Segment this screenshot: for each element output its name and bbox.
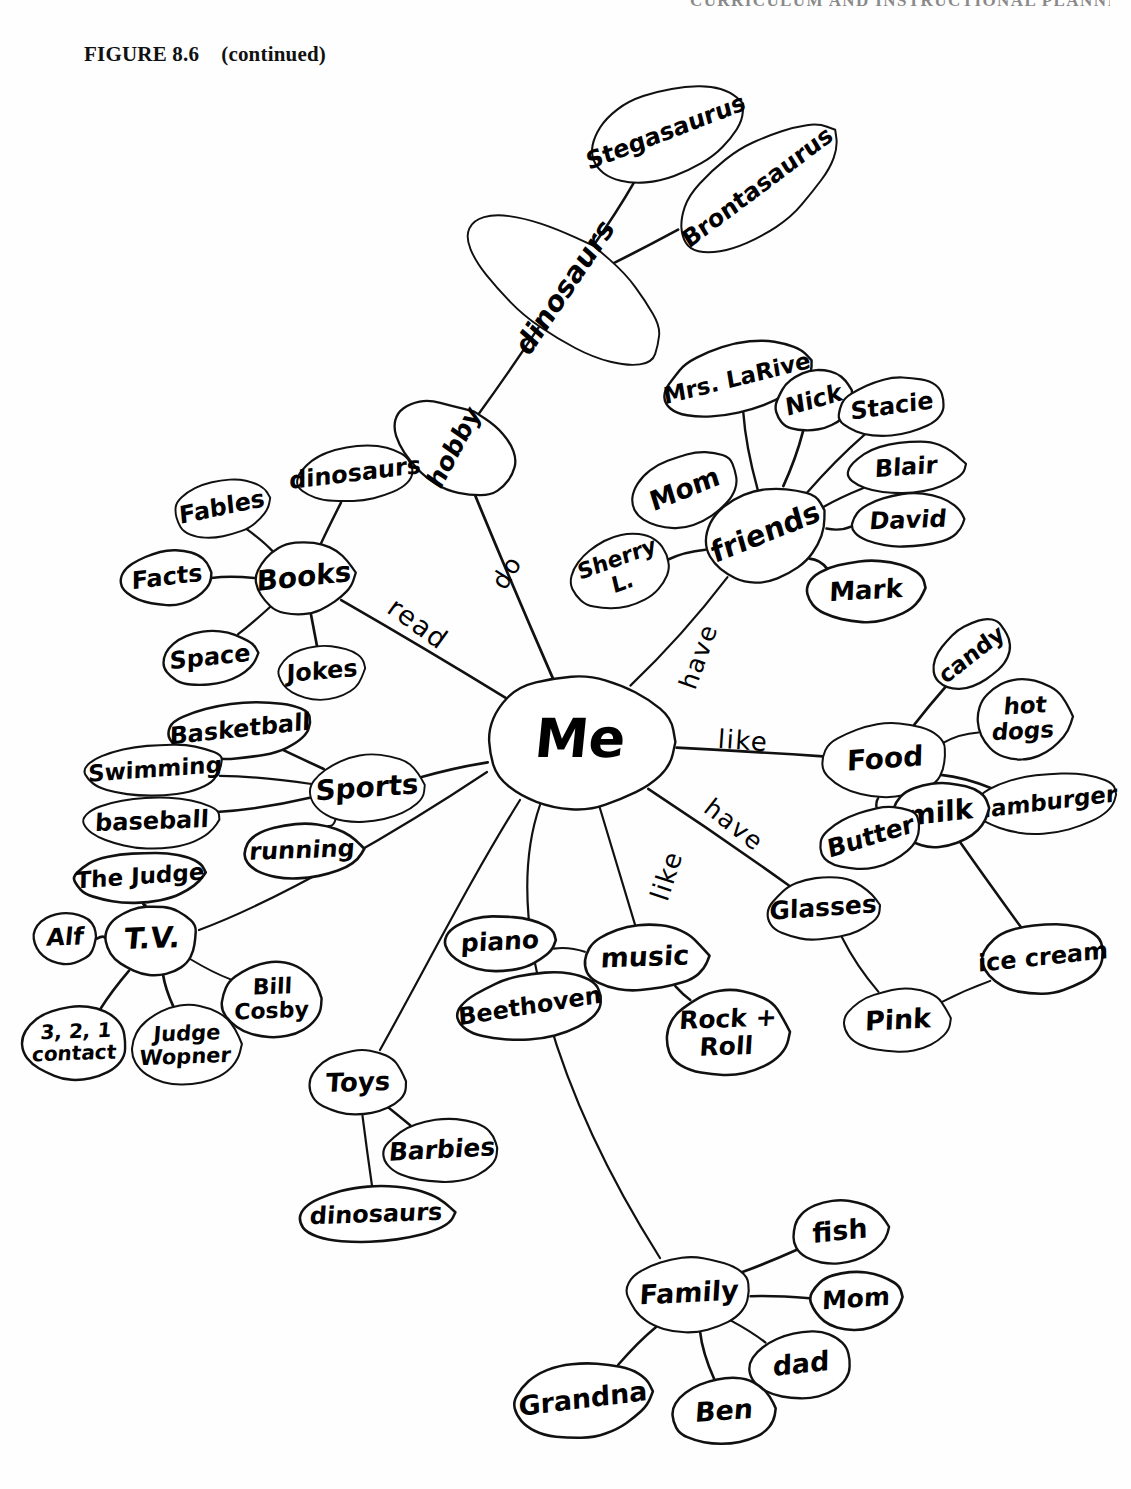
edge-sports-to-baseball — [217, 798, 311, 813]
node-label-piano: piano — [460, 925, 540, 958]
node-label-running: running — [248, 834, 356, 866]
node-tv[interactable]: T.V. — [105, 907, 195, 976]
node-icecream[interactable]: ice cream — [978, 924, 1108, 993]
node-books[interactable]: Books — [256, 542, 356, 614]
node-mom_fam[interactable]: Mom — [810, 1272, 902, 1330]
edge-books-to-jokes — [311, 613, 317, 645]
edge-sports-to-running — [328, 819, 336, 826]
edge-food-to-hotdogs — [943, 732, 978, 743]
edge-friends-to-david — [826, 526, 852, 529]
edge-pink-to-glasses — [842, 937, 879, 992]
edge-books-to-space — [238, 607, 271, 635]
edge-sports-to-swimming — [220, 776, 312, 784]
mind-map-diagram: MehobbydinosaursStegasaurusBrontasaurusB… — [0, 0, 1131, 1489]
node-candy[interactable]: candy — [933, 619, 1009, 689]
edge-me-to-music — [600, 807, 636, 926]
edge-label-me-to-food: like — [717, 724, 770, 757]
node-baseball[interactable]: baseball — [83, 798, 219, 849]
node-label-alf: Alf — [45, 922, 85, 951]
node-label-dinosaurs_t: dinosaurs — [309, 1198, 443, 1231]
node-label-music: music — [600, 939, 690, 973]
node-toys[interactable]: Toys — [309, 1050, 406, 1114]
node-sherry[interactable]: SherryL. — [571, 532, 669, 608]
node-label-dad: dad — [773, 1344, 830, 1381]
edge-family-to-ben — [700, 1331, 714, 1379]
node-label-blair: Blair — [874, 451, 938, 483]
node-david[interactable]: David — [852, 493, 964, 547]
page-canvas: CURRICULUM AND INSTRUCTIONAL PLANNING FI… — [0, 0, 1131, 1489]
node-piano[interactable]: piano — [445, 916, 556, 971]
edge-family-to-grandna — [618, 1327, 656, 1365]
node-label-judgewopner: JudgeWopner — [139, 1019, 234, 1070]
edge-family-to-dad — [731, 1321, 766, 1343]
node-label-david: David — [868, 505, 948, 536]
node-butter[interactable]: Butter — [820, 807, 919, 869]
node-rockroll[interactable]: Rock +Roll — [667, 990, 790, 1075]
node-fish[interactable]: fish — [793, 1200, 889, 1263]
node-swimming[interactable]: Swimming — [85, 745, 223, 796]
node-barbies[interactable]: Barbies — [383, 1119, 497, 1182]
node-label-fish: fish — [812, 1212, 867, 1249]
node-space[interactable]: Space — [164, 631, 259, 685]
node-contact321[interactable]: 3, 2, 1contact — [22, 1006, 125, 1080]
node-glasses[interactable]: Glasses — [768, 877, 880, 939]
node-alf[interactable]: Alf — [34, 913, 96, 964]
node-beethoven[interactable]: Beethoven — [457, 972, 602, 1040]
node-hamburger[interactable]: hamburger — [974, 773, 1118, 834]
node-sports[interactable]: Sports — [310, 754, 425, 822]
node-label-me: Me — [532, 707, 629, 770]
node-music[interactable]: music — [585, 925, 710, 991]
edge-me-to-sports — [422, 762, 488, 777]
node-dinosaurs_h[interactable]: dinosaurs — [468, 212, 660, 365]
edge-books-to-dinosaurs_b — [321, 503, 341, 544]
node-hobby[interactable]: hobby — [395, 400, 516, 495]
edge-food-to-butter — [876, 798, 878, 807]
edge-label-me-to-hobby: do — [485, 550, 528, 594]
node-jokes[interactable]: Jokes — [278, 646, 365, 700]
edge-sports-to-basketball — [282, 749, 324, 769]
node-mark[interactable]: Mark — [807, 561, 926, 623]
node-grandna[interactable]: Grandna — [514, 1363, 653, 1437]
node-label-mom_fam: Mom — [822, 1282, 891, 1316]
node-label-barbies: Barbies — [388, 1132, 497, 1167]
node-label-toys: Toys — [325, 1065, 391, 1097]
edge-friends-to-mrslarive — [743, 413, 757, 490]
bubbles-layer: MehobbydinosaursStegasaurusBrontasaurusB… — [22, 86, 1118, 1444]
node-label-food: Food — [846, 739, 923, 777]
node-label-ben: Ben — [694, 1392, 754, 1427]
node-dinosaurs_t[interactable]: dinosaurs — [300, 1186, 456, 1242]
edge-tv-to-contact321 — [100, 971, 129, 1010]
edge-family-to-mom_fam — [751, 1296, 810, 1298]
edge-toys-to-dinosaurs_t — [363, 1116, 373, 1187]
edge-label-me-to-music: like — [644, 847, 688, 904]
node-billcosby[interactable]: BillCosby — [222, 962, 322, 1037]
node-facts[interactable]: Facts — [121, 550, 212, 605]
node-fables[interactable]: Fables — [176, 479, 271, 537]
node-label-contact321: 3, 2, 1contact — [31, 1017, 119, 1066]
edge-friends-to-mark — [809, 559, 827, 569]
node-label-baseball: baseball — [95, 805, 210, 837]
node-label-family: Family — [639, 1274, 740, 1310]
edge-dinosaurs_h-to-brontasaurus — [613, 230, 678, 264]
edge-friends-to-blair — [823, 488, 864, 507]
edge-friends-to-sherry — [668, 550, 705, 560]
edge-music-to-piano — [554, 948, 585, 952]
node-ben[interactable]: Ben — [673, 1378, 776, 1444]
node-blair[interactable]: Blair — [848, 442, 966, 494]
node-hotdogs[interactable]: hotdogs — [978, 679, 1073, 759]
edge-tv-to-billcosby — [190, 959, 231, 979]
node-label-mark: Mark — [829, 573, 904, 607]
edge-label-me-to-friends: have — [673, 620, 723, 693]
edge-family-to-fish — [742, 1250, 797, 1273]
node-stacie[interactable]: Stacie — [839, 377, 944, 435]
edge-friends-to-nick — [783, 431, 803, 486]
edge-music-to-rockroll — [675, 986, 690, 1000]
edge-books-to-fables — [247, 529, 273, 551]
node-dinosaurs_b[interactable]: dinosaurs — [289, 445, 421, 501]
node-label-tv: T.V. — [123, 920, 182, 956]
node-running[interactable]: running — [245, 824, 365, 879]
node-thejudge[interactable]: The Judge — [74, 853, 206, 903]
node-pink[interactable]: Pink — [844, 988, 951, 1051]
edge-milk-to-icecream — [960, 842, 1021, 927]
node-family[interactable]: Family — [627, 1257, 749, 1332]
